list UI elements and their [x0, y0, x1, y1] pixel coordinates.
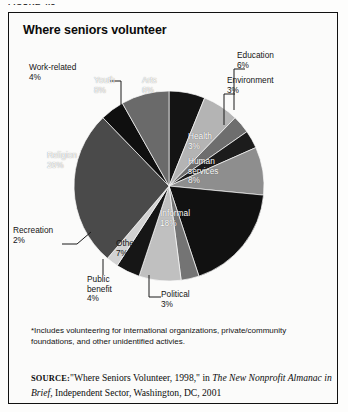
- leader-recreation-d: [77, 232, 91, 244]
- label-education-name: Education: [237, 50, 274, 60]
- label-public-benefit-pct: 4%: [87, 294, 112, 304]
- label-health-pct: 3%: [188, 142, 212, 152]
- label-arts-name: Arts: [142, 75, 157, 85]
- label-health: Health 3%: [188, 132, 212, 151]
- label-human-services-pct: 8%: [188, 176, 218, 186]
- label-youth-name: Youth: [94, 75, 115, 85]
- label-political-pct: 3%: [161, 300, 190, 310]
- label-informal-pct: 18%: [160, 219, 190, 229]
- label-recreation: Recreation 2%: [13, 226, 53, 245]
- source-label: SOURCE:: [31, 374, 70, 383]
- source-part2: Independent Sector, Washington, DC, 2001: [53, 387, 222, 398]
- label-work-related-name: Work-related: [29, 62, 76, 72]
- label-public-benefit: Public benefit 4%: [87, 275, 112, 304]
- label-human-services-name: Human: [188, 156, 215, 166]
- label-other-name: Other*: [116, 238, 140, 248]
- label-other-pct: 7%: [116, 249, 140, 259]
- label-work-related-pct: 4%: [29, 73, 76, 83]
- label-political: Political 3%: [161, 290, 190, 309]
- label-other: Other* 7%: [116, 239, 140, 258]
- label-youth: Youth 8%: [94, 76, 115, 95]
- label-religion-pct: 26%: [47, 161, 77, 171]
- label-religion: Religion 26%: [47, 151, 77, 170]
- footnote: *Includes volunteering for international…: [31, 325, 331, 347]
- source-note: SOURCE:"Where Seniors Volunteer, 1998," …: [31, 371, 333, 399]
- label-informal-name: Informal: [160, 208, 190, 218]
- label-environment-name: Environment: [227, 75, 274, 85]
- label-recreation-pct: 2%: [13, 236, 53, 246]
- label-human-services: Human services 8%: [188, 157, 218, 186]
- label-work-related: Work-related 4%: [29, 63, 76, 82]
- label-religion-name: Religion: [47, 150, 77, 160]
- label-youth-pct: 8%: [94, 86, 115, 96]
- label-education: Education 6%: [237, 51, 274, 70]
- figure-box: Where seniors volunteer Education 6% Env: [8, 12, 338, 404]
- figure-caption: FIGURE 4.5: [8, 0, 56, 7]
- label-informal: Informal 18%: [160, 209, 190, 228]
- label-arts: Arts 6%: [142, 76, 157, 95]
- label-education-pct: 6%: [237, 61, 274, 71]
- label-environment-pct: 3%: [227, 86, 274, 96]
- label-recreation-name: Recreation: [13, 225, 53, 235]
- label-public-benefit-name: Public: [87, 274, 110, 284]
- label-political-name: Political: [161, 289, 190, 299]
- label-health-name: Health: [188, 131, 212, 141]
- pie-slices: [74, 91, 264, 281]
- label-environment: Environment 3%: [227, 76, 274, 95]
- source-part1: "Where Seniors Volunteer, 1998," in: [70, 372, 212, 383]
- label-arts-pct: 6%: [142, 86, 157, 96]
